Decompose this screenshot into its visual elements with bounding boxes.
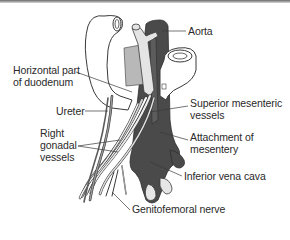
label-genitofemoral-nerve: Genitofemoral nerve (132, 203, 225, 215)
label-text: of duodenum (13, 76, 80, 88)
label-text: Genitofemoral nerve (132, 203, 225, 215)
label-superior-mesenteric-vessels: Superior mesenteric vessels (190, 97, 282, 121)
label-right-gonadal-vessels: Right gonadal vessels (40, 127, 77, 163)
label-text: vessels (190, 109, 282, 121)
label-aorta: Aorta (188, 25, 213, 37)
label-text: Ureter (56, 105, 85, 117)
label-attachment-of-mesentery: Attachment of mesentery (190, 131, 253, 155)
label-text: Attachment of (190, 131, 253, 143)
label-text: Superior mesenteric (190, 97, 282, 109)
horizontal-duodenum-shape (160, 48, 196, 100)
label-text: gonadal (40, 139, 77, 151)
label-text: Right (40, 127, 77, 139)
label-text: vessels (40, 151, 77, 163)
label-ureter: Ureter (56, 105, 85, 117)
label-text: Inferior vena cava (184, 170, 266, 182)
label-text: Aorta (188, 25, 213, 37)
label-horizontal-duodenum: Horizontal part of duodenum (13, 64, 80, 88)
label-text: mesentery (190, 143, 253, 155)
label-text: Horizontal part (13, 64, 80, 76)
label-inferior-vena-cava: Inferior vena cava (184, 170, 266, 182)
